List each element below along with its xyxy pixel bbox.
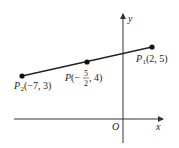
p-frac-den: 2 — [84, 79, 88, 88]
p-coords-prefix: (− — [71, 72, 80, 84]
p1-coords: (2, 5) — [146, 53, 168, 65]
point-p — [84, 59, 89, 64]
point-p1-label: P 1 (2, 5) — [135, 53, 168, 66]
p-frac-num: 5 — [84, 69, 88, 78]
coordinate-diagram: y x O P 2 (−7, 3) P (− 5 2 , 4) P 1 (2, … — [0, 0, 179, 148]
point-p1 — [149, 44, 154, 49]
p2-coords: (−7, 3) — [24, 80, 51, 92]
p-coords-suffix: , 4) — [89, 72, 102, 84]
x-axis-label: x — [155, 121, 161, 132]
diagram-svg: y x O P 2 (−7, 3) P (− 5 2 , 4) P 1 (2, … — [0, 0, 179, 148]
point-p-label: P (− 5 2 , 4) — [64, 69, 102, 88]
point-p2 — [19, 73, 24, 78]
p1-name: P — [135, 53, 142, 64]
origin-label: O — [112, 121, 119, 132]
p2-name: P — [13, 80, 20, 91]
point-p2-label: P 2 (−7, 3) — [13, 80, 51, 93]
y-axis-label: y — [127, 13, 133, 24]
